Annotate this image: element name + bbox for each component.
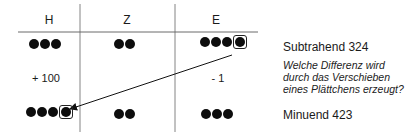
counter-dot bbox=[26, 107, 36, 117]
counter-dot bbox=[61, 107, 71, 117]
counter-dot bbox=[37, 107, 47, 117]
question-text: Welche Differenz wird durch das Verschie… bbox=[283, 59, 404, 95]
moved-counter-box[interactable] bbox=[233, 35, 247, 49]
subtrahend-e-dots bbox=[200, 35, 247, 49]
minuend-e-dots bbox=[201, 109, 233, 119]
minuend-z-dots bbox=[114, 109, 135, 119]
minuend-h-dots bbox=[26, 105, 73, 119]
counter-dot bbox=[114, 39, 124, 49]
counter-dot bbox=[222, 37, 232, 47]
column-header-e: E bbox=[201, 13, 231, 27]
change-h: + 100 bbox=[28, 72, 64, 84]
question-line: durch das Verschieben bbox=[283, 71, 404, 83]
counter-dot bbox=[51, 39, 61, 49]
change-e: - 1 bbox=[204, 72, 232, 84]
counter-dot bbox=[235, 37, 245, 47]
counter-dot bbox=[29, 39, 39, 49]
question-line: Welche Differenz wird bbox=[283, 59, 404, 71]
subtrahend-z-dots bbox=[114, 39, 135, 49]
counter-dot bbox=[201, 109, 211, 119]
counter-dot bbox=[200, 37, 210, 47]
counter-dot bbox=[223, 109, 233, 119]
counter-dot bbox=[125, 109, 135, 119]
minuend-label: Minuend 423 bbox=[283, 108, 352, 122]
counter-dot bbox=[40, 39, 50, 49]
moved-counter-box[interactable] bbox=[59, 105, 73, 119]
counter-dot bbox=[48, 107, 58, 117]
counter-dot bbox=[211, 37, 221, 47]
counter-dot bbox=[114, 109, 124, 119]
subtrahend-h-dots bbox=[29, 39, 61, 49]
column-header-h: H bbox=[34, 13, 64, 27]
counter-dot bbox=[125, 39, 135, 49]
question-line: eines Plättchens erzeugt? bbox=[283, 83, 404, 95]
counter-dot bbox=[212, 109, 222, 119]
column-header-z: Z bbox=[112, 13, 142, 27]
subtrahend-label: Subtrahend 324 bbox=[283, 40, 368, 54]
